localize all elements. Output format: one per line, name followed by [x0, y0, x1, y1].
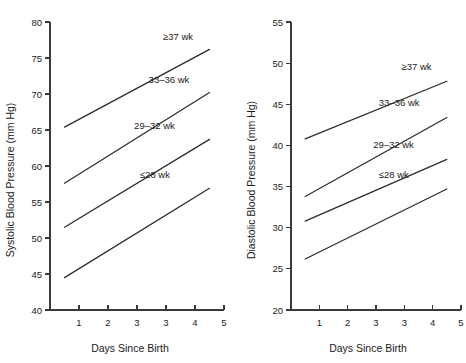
- diastolic-x-tick-labels: 123345: [317, 317, 464, 328]
- diastolic-chart-svg: Diastolic Blood Pressure (mm Hg) 2025303…: [233, 0, 466, 363]
- systolic-series-label: ≤28 wk: [140, 169, 170, 180]
- diastolic-y-tick-label: 55: [272, 17, 283, 28]
- diastolic-y-tick-label: 35: [272, 181, 283, 192]
- diastolic-series-label: ≥37 wk: [402, 61, 432, 72]
- diastolic-y-tick-labels: 2025303540455055: [272, 17, 283, 316]
- systolic-series-labels: ≥37 wk33–36 wk29–32 wk≤28 wk: [134, 31, 193, 180]
- systolic-series-label: ≥37 wk: [163, 31, 193, 42]
- diastolic-x-tick-label: 5: [458, 317, 463, 328]
- systolic-x-tick-label: 2: [105, 317, 110, 328]
- diastolic-y-tick-label: 40: [272, 140, 283, 151]
- chart-panel-diastolic: Diastolic Blood Pressure (mm Hg) 2025303…: [233, 0, 466, 363]
- diastolic-series-line: [305, 189, 447, 259]
- chart-panel-systolic: Systolic Blood Pressure (mm Hg) 40455055…: [0, 0, 233, 363]
- diastolic-x-axis-title: Days Since Birth: [329, 342, 407, 354]
- diastolic-series-label: 33–36 wk: [379, 97, 420, 108]
- systolic-x-tick-label: 4: [192, 317, 197, 328]
- diastolic-series-labels: ≥37 wk33–36 wk29–32 wk≤28 wk: [373, 61, 432, 180]
- diastolic-x-tick-label: 4: [430, 317, 435, 328]
- systolic-x-tick-labels: 123345: [76, 317, 226, 328]
- systolic-series-label: 33–36 wk: [149, 74, 190, 85]
- diastolic-x-tick-label: 2: [345, 317, 350, 328]
- systolic-y-tick-label: 40: [31, 305, 42, 316]
- diastolic-y-tick-label: 20: [272, 305, 283, 316]
- diastolic-y-tick-label: 45: [272, 99, 283, 110]
- diastolic-axes: [286, 22, 461, 310]
- systolic-series-line: [65, 139, 210, 227]
- systolic-y-tick-label: 60: [31, 161, 42, 172]
- systolic-axes: [45, 22, 224, 310]
- diastolic-y-tick-label: 50: [272, 58, 283, 69]
- diastolic-series-label: 29–32 wk: [373, 139, 414, 150]
- diastolic-x-tick-label: 3: [373, 317, 378, 328]
- systolic-y-tick-label: 80: [31, 17, 42, 28]
- diastolic-series-lines: [305, 81, 447, 259]
- systolic-y-tick-label: 75: [31, 53, 42, 64]
- systolic-series-line: [65, 93, 210, 184]
- systolic-x-axis-title: Days Since Birth: [91, 342, 169, 354]
- systolic-y-tick-label: 55: [31, 197, 42, 208]
- diastolic-x-tick-label: 1: [317, 317, 322, 328]
- systolic-y-axis-title-group: Systolic Blood Pressure (mm Hg): [4, 103, 16, 258]
- systolic-chart-svg: Systolic Blood Pressure (mm Hg) 40455055…: [0, 0, 233, 363]
- systolic-y-axis-title: Systolic Blood Pressure (mm Hg): [4, 103, 16, 258]
- figure-container: Systolic Blood Pressure (mm Hg) 40455055…: [0, 0, 466, 363]
- diastolic-series-line: [305, 117, 447, 196]
- diastolic-x-tick-label: 3: [402, 317, 407, 328]
- systolic-y-tick-label: 50: [31, 233, 42, 244]
- diastolic-series-label: ≤28 wk: [379, 169, 409, 180]
- systolic-y-tick-label: 70: [31, 89, 42, 100]
- diastolic-series-line: [305, 159, 447, 221]
- systolic-series-label: 29–32 wk: [134, 120, 175, 131]
- diastolic-y-tick-label: 25: [272, 263, 283, 274]
- systolic-x-tick-label: 1: [76, 317, 81, 328]
- diastolic-y-tick-label: 30: [272, 222, 283, 233]
- systolic-y-tick-label: 45: [31, 269, 42, 280]
- systolic-x-tick-label: 3: [163, 317, 168, 328]
- systolic-y-tick-label: 65: [31, 125, 42, 136]
- diastolic-series-line: [305, 81, 447, 139]
- systolic-x-tick-label: 5: [221, 317, 226, 328]
- systolic-x-tick-label: 3: [134, 317, 139, 328]
- diastolic-y-axis-title: Diastolic Blood Pressure (mm Hg): [245, 101, 257, 259]
- systolic-series-line: [65, 49, 210, 127]
- diastolic-y-axis-title-group: Diastolic Blood Pressure (mm Hg): [245, 101, 257, 259]
- systolic-series-line: [65, 188, 210, 277]
- systolic-y-tick-labels: 404550556065707580: [31, 17, 42, 316]
